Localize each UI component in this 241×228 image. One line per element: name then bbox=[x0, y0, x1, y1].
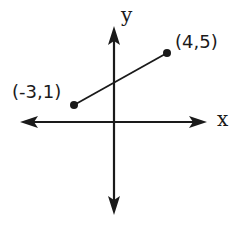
y-axis bbox=[108, 26, 120, 215]
y-axis-label: y bbox=[121, 5, 132, 25]
line-segment bbox=[74, 53, 167, 105]
x-axis-label: x bbox=[217, 109, 228, 129]
point-label-neg3-1: (-3,1) bbox=[12, 83, 61, 101]
point-4-5 bbox=[163, 49, 171, 57]
point-neg3-1 bbox=[70, 101, 78, 109]
point-label-4-5: (4,5) bbox=[175, 33, 218, 51]
